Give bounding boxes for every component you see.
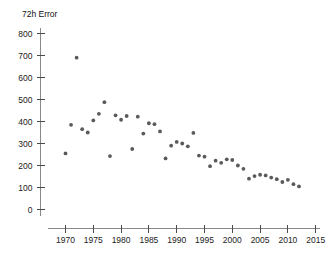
data-point: [280, 180, 284, 184]
x-axis-ticks: 1970197519801985199019952000200520102015: [56, 225, 325, 246]
data-point: [297, 185, 301, 189]
x-tick-label: 1995: [195, 235, 214, 245]
data-point: [86, 131, 90, 135]
y-tick-label: 800: [18, 29, 32, 39]
data-point: [203, 155, 207, 159]
x-tick-label: 1990: [167, 235, 186, 245]
x-tick-label: 2005: [251, 235, 270, 245]
data-point: [242, 167, 246, 171]
data-point: [219, 161, 223, 165]
data-point: [136, 115, 140, 119]
data-point: [253, 174, 257, 178]
y-tick-label: 300: [18, 139, 32, 149]
data-point: [153, 122, 157, 126]
data-point: [258, 173, 262, 177]
x-tick-label: 2010: [278, 235, 297, 245]
data-points: [64, 56, 301, 189]
data-point: [64, 152, 68, 156]
data-point: [119, 118, 123, 122]
data-point: [158, 130, 162, 134]
data-point: [186, 144, 190, 148]
data-point: [103, 100, 107, 104]
y-tick-label: 500: [18, 95, 32, 105]
data-point: [214, 159, 218, 163]
data-point: [225, 157, 229, 161]
data-point: [247, 177, 251, 181]
data-point: [275, 177, 279, 181]
data-point: [164, 157, 168, 161]
data-point: [91, 119, 95, 123]
data-point: [97, 112, 101, 116]
data-point: [286, 178, 290, 182]
page-title: 72h Error: [22, 9, 58, 19]
data-point: [130, 147, 134, 151]
data-point: [208, 164, 212, 168]
data-point: [108, 154, 112, 158]
x-tick-label: 1975: [84, 235, 103, 245]
data-point: [180, 142, 184, 146]
data-point: [230, 158, 234, 162]
data-point: [80, 127, 84, 131]
x-tick-label: 1980: [112, 235, 131, 245]
data-point: [147, 121, 151, 125]
x-tick-label: 2000: [223, 235, 242, 245]
chart-title-group: 72h Error: [22, 9, 58, 19]
y-tick-label: 0: [28, 205, 33, 215]
data-point: [292, 182, 296, 186]
x-tick-label: 1970: [56, 235, 75, 245]
x-tick-label: 1985: [139, 235, 158, 245]
scatter-plot: 72h Error 0100200300400500600700800 1970…: [0, 0, 326, 256]
data-point: [264, 174, 268, 178]
y-tick-label: 100: [18, 183, 32, 193]
data-point: [169, 144, 173, 148]
y-tick-label: 400: [18, 117, 32, 127]
data-point: [269, 176, 273, 180]
data-point: [125, 114, 129, 118]
data-point: [141, 132, 145, 136]
x-tick-label: 2015: [306, 235, 325, 245]
data-point: [69, 123, 73, 127]
data-point: [75, 56, 79, 60]
y-tick-label: 600: [18, 73, 32, 83]
y-tick-label: 700: [18, 51, 32, 61]
data-point: [175, 140, 179, 144]
data-point: [197, 154, 201, 158]
data-point: [236, 164, 240, 168]
data-point: [191, 131, 195, 135]
data-point: [114, 113, 118, 117]
chart-container: 72h Error 0100200300400500600700800 1970…: [0, 0, 326, 256]
y-tick-label: 200: [18, 161, 32, 171]
